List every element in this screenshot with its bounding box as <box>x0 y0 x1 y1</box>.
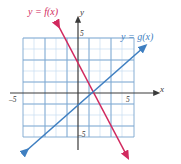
graph-canvas <box>0 0 181 164</box>
line-f <box>58 25 127 156</box>
y-axis-label: y <box>80 7 84 17</box>
label-f-function: y = f(x) <box>28 6 58 17</box>
y-tick-negative-5: –5 <box>78 130 86 139</box>
x-tick-5: 5 <box>126 95 130 104</box>
x-tick-negative-5: –5 <box>9 95 17 104</box>
y-tick-5: 5 <box>80 29 84 38</box>
x-axis-label: x <box>160 84 164 94</box>
label-g-function: y = g(x) <box>121 31 153 42</box>
coordinate-plane-figure: y = f(x) y = g(x) y x 5 –5 5 –5 <box>0 0 181 164</box>
